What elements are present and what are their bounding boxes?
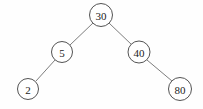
tree-node-30[interactable]: 30 [90,4,113,27]
tree-node-label-30: 30 [96,10,108,22]
tree-edge-n40-n80 [147,60,172,81]
tree-node-40[interactable]: 40 [128,41,150,63]
tree-edge-n30-n5 [70,23,93,45]
tree-node-label-40: 40 [134,47,146,59]
tree-node-5[interactable]: 5 [52,42,73,63]
tree-node-label-80: 80 [175,84,187,96]
nodes-group: 30540280 [18,4,192,101]
tree-edge-n30-n40 [109,23,132,45]
tree-node-2[interactable]: 2 [18,79,39,100]
tree-node-label-2: 2 [25,84,31,96]
tree-edge-n5-n2 [36,60,55,81]
tree-node-80[interactable]: 80 [169,78,192,101]
tree-canvas: 30540280 [0,0,203,109]
tree-node-label-5: 5 [59,47,65,59]
binary-tree-diagram: 30540280 [0,0,203,109]
